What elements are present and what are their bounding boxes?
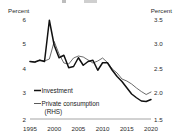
right-axis-ticks: 3.5 3.0 2.5 2.0 1.5	[154, 16, 163, 123]
x-tick-label: 2020	[144, 125, 158, 132]
right-tick-label: 1.5	[154, 116, 163, 123]
legend-label-investment: Investment	[42, 87, 73, 94]
x-axis-ticks: 1995 2000 2005 2010 2015 2020	[23, 125, 158, 132]
chart-figure: Percent Percent 6 5 4 3 2 3.5 3.0 2.5 2.…	[0, 0, 180, 140]
x-tick-label: 2015	[120, 125, 134, 132]
x-tick-label: 2005	[72, 125, 86, 132]
right-tick-label: 2.0	[154, 89, 163, 96]
right-axis-unit-label: Percent	[151, 7, 173, 14]
left-axis-unit-label: Percent	[8, 7, 30, 14]
x-tick-label: 2010	[96, 125, 110, 132]
chart-legend: Investment Private consumption (RHS)	[34, 87, 100, 116]
left-tick-label: 4	[23, 65, 27, 72]
left-axis-ticks: 6 5 4 3 2	[23, 16, 27, 123]
x-tick-label: 2000	[47, 125, 61, 132]
legend-label-rhs-note: (RHS)	[45, 108, 63, 116]
chart-svg: Percent Percent 6 5 4 3 2 3.5 3.0 2.5 2.…	[0, 0, 180, 140]
right-tick-label: 3.0	[154, 40, 163, 47]
right-tick-label: 2.5	[154, 65, 163, 72]
left-tick-label: 5	[23, 40, 27, 47]
x-tick-label: 1995	[23, 125, 37, 132]
left-tick-label: 6	[23, 16, 27, 23]
right-tick-label: 3.5	[154, 16, 163, 23]
chart-title-clipped	[62, 0, 97, 3]
left-tick-label: 3	[23, 89, 27, 96]
legend-label-private-consumption: Private consumption	[42, 100, 100, 108]
left-tick-label: 2	[23, 116, 27, 123]
